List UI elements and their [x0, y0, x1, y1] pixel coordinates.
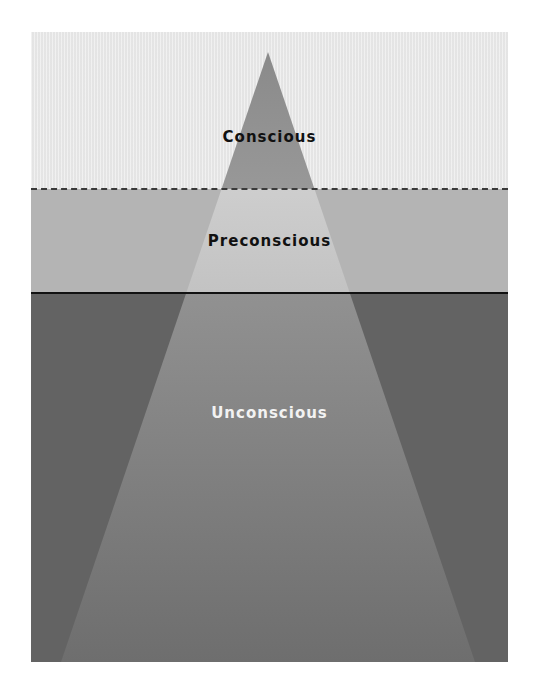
unconscious-label: Unconscious — [31, 404, 508, 422]
conscious-label: Conscious — [31, 128, 508, 146]
unconscious-boundary-solid-line — [31, 292, 508, 294]
preconscious-label: Preconscious — [31, 232, 508, 250]
preconscious-boundary-dashed-line — [31, 188, 508, 190]
iceberg-diagram: Conscious Preconscious Unconscious — [31, 32, 508, 662]
mind-pyramid-triangle — [31, 32, 508, 662]
